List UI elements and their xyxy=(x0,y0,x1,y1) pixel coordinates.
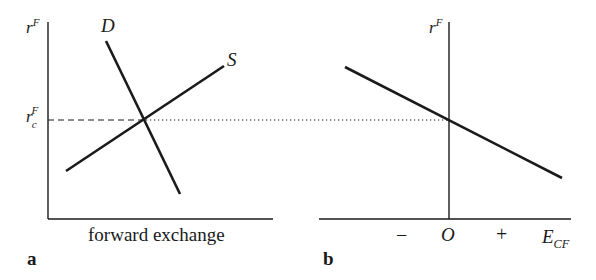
demand-label: D xyxy=(101,15,115,37)
supply-curve xyxy=(66,66,224,171)
tick-plus: + xyxy=(496,223,507,246)
panel-b-x-axis-label: ECF xyxy=(542,226,569,252)
panel-a-label: a xyxy=(27,248,37,270)
panel-b-label: b xyxy=(323,248,334,270)
demand-curve xyxy=(106,41,180,194)
tick-minus: − xyxy=(396,224,407,247)
equilibrium-rate-label: rcF xyxy=(26,108,44,127)
panel-b-y-axis-label: rF xyxy=(429,16,442,38)
panel-a-x-axis-label: forward exchange xyxy=(88,224,225,246)
tick-origin: O xyxy=(441,224,455,246)
panel-a-y-axis-label: rF xyxy=(26,16,39,38)
supply-label: S xyxy=(227,49,237,71)
panel-b-curve xyxy=(345,67,562,178)
